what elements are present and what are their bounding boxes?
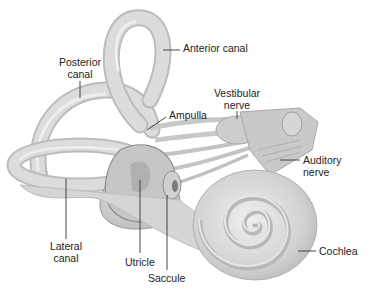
label-auditory-nerve-line1: Auditory (303, 154, 342, 166)
label-utricle: Utricle (125, 256, 155, 268)
cochlea-shape (193, 170, 317, 280)
label-auditory-nerve: Auditory nerve (303, 154, 342, 178)
label-ampulla: Ampulla (169, 109, 207, 121)
label-posterior-canal: Posterior canal (56, 56, 104, 80)
label-vestibular-nerve: Vestibular nerve (210, 87, 264, 111)
label-vestibular-nerve-line2: nerve (210, 99, 264, 111)
label-auditory-nerve-line2: nerve (303, 166, 342, 178)
label-anterior-canal: Anterior canal (183, 42, 248, 54)
label-cochlea: Cochlea (319, 245, 358, 257)
inner-ear-diagram: Anterior canal Posterior canal Ampulla V… (0, 0, 372, 297)
label-posterior-canal-line2: canal (56, 68, 104, 80)
label-vestibular-nerve-line1: Vestibular (210, 87, 264, 99)
label-lateral-canal: Lateral canal (44, 240, 88, 264)
anterior-canal-shape (111, 18, 163, 125)
label-lateral-canal-line1: Lateral (44, 240, 88, 252)
label-saccule: Saccule (148, 272, 185, 284)
label-posterior-canal-line1: Posterior (56, 56, 104, 68)
label-lateral-canal-line2: canal (44, 252, 88, 264)
